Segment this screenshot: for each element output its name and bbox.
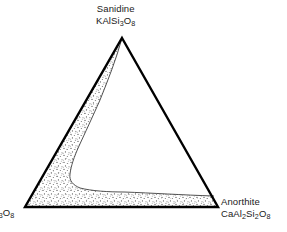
vertex-label-sanidine: Sanidine KAlSi3O8 bbox=[96, 3, 135, 27]
vertex-label-anorthite: Anorthite CaAl2Si2O8 bbox=[221, 196, 270, 220]
sanidine-mineral-name: Sanidine bbox=[96, 3, 135, 15]
anorthite-formula: CaAl2Si2O8 bbox=[221, 208, 270, 221]
two-phase-stippled-region bbox=[25, 38, 218, 207]
stipple-fill-overlay bbox=[25, 38, 218, 207]
albite-formula: NaAlSi3O8 bbox=[0, 207, 14, 220]
sanidine-formula: KAlSi3O8 bbox=[96, 15, 135, 28]
anorthite-mineral-name: Anorthite bbox=[221, 196, 270, 208]
vertex-label-albite-cropped: NaAlSi3O8 bbox=[0, 207, 14, 220]
ternary-phase-diagram-figure: Sanidine KAlSi3O8 Anorthite CaAl2Si2O8 N… bbox=[0, 0, 287, 232]
